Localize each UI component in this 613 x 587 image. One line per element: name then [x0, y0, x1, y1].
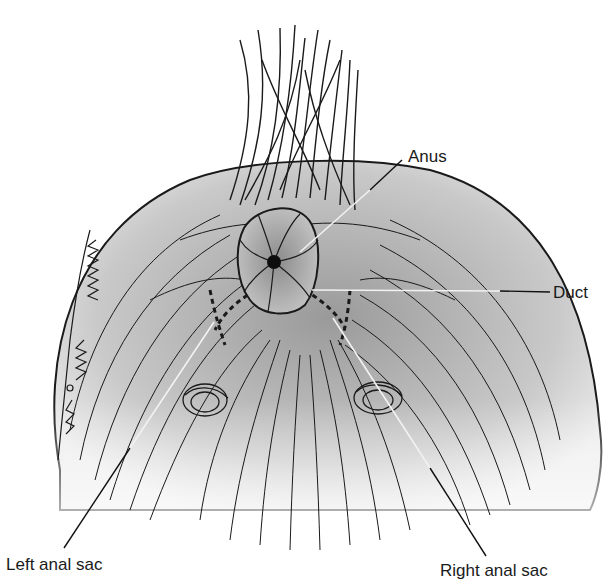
label-anus: Anus [408, 148, 447, 165]
anus-structure [238, 208, 318, 313]
label-duct: Duct [553, 284, 588, 301]
illustration [0, 0, 613, 587]
label-right-anal-sac: Right anal sac [440, 562, 548, 579]
duct-leader-line [500, 291, 550, 292]
anal-sac-diagram: Anus Duct Left anal sac Right anal sac [0, 0, 613, 587]
label-left-anal-sac: Left anal sac [6, 556, 102, 573]
rump [40, 161, 610, 570]
